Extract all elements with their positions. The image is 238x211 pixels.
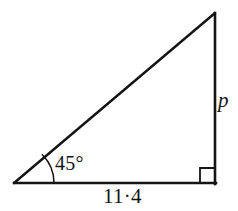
figure-background — [0, 0, 238, 211]
base-side-label: 11·4 — [103, 186, 142, 207]
triangle-diagram-svg — [0, 0, 238, 211]
angle-label-45: 45° — [55, 153, 84, 173]
geometry-figure: 45° p 11·4 — [0, 0, 238, 211]
vertical-side-label: p — [218, 90, 229, 111]
